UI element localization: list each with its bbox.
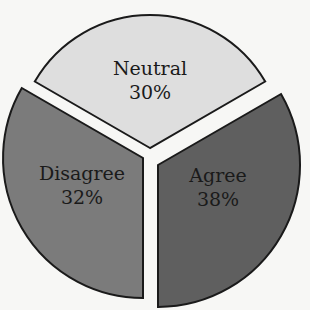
- slice-neutral-label: Neutral: [113, 57, 187, 79]
- slice-disagree-percent: 32%: [61, 186, 103, 208]
- slice-agree-percent: 38%: [197, 188, 239, 210]
- slice-agree-label: Agree: [188, 164, 246, 186]
- pie-chart: Neutral 30% Agree 38% Disagree 32%: [0, 0, 310, 310]
- slice-disagree-label: Disagree: [39, 162, 125, 184]
- slice-neutral-percent: 30%: [129, 81, 171, 103]
